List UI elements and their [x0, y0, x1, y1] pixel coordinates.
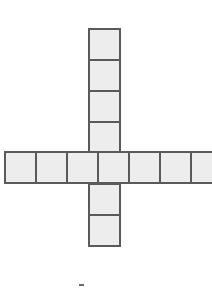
grid-cell-row-2	[35, 151, 68, 184]
figure-canvas	[0, 0, 212, 289]
grid-cell-column-3	[88, 90, 121, 123]
grid-cell-row-3	[66, 151, 99, 184]
grid-cell-column-1	[88, 28, 121, 61]
grid-cell-column-2	[88, 59, 121, 92]
grid-cell-center	[97, 151, 130, 184]
grid-cell-column-7	[88, 214, 121, 247]
baseline-tick-mark	[79, 284, 84, 286]
grid-cell-row-1	[4, 151, 37, 184]
grid-cell-row-6	[159, 151, 192, 184]
grid-cell-column-4	[88, 121, 121, 154]
grid-cell-row-5	[128, 151, 161, 184]
grid-cell-column-6	[88, 183, 121, 216]
grid-cell-row-7	[190, 151, 212, 184]
